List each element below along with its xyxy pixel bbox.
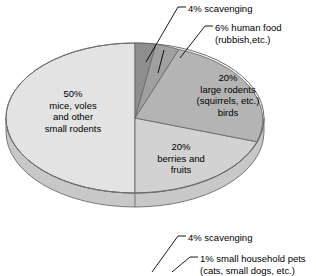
slice-label-berries-line2: berries and <box>140 153 222 165</box>
callout-label-small-household-pets: 1% small household pets (cats, small dog… <box>200 253 306 276</box>
callout-label-scavenging-bottom: 4% scavenging <box>188 232 252 244</box>
callout-text-pets-line2: (cats, small dogs, etc.) <box>200 265 306 276</box>
slice-label-berries-and-fruits: 20% berries and fruits <box>140 141 222 176</box>
slice-label-large-percent: 20% <box>176 72 280 84</box>
slice-label-large-line4: birds <box>176 107 280 119</box>
slice-label-berries-line3: fruits <box>140 164 222 176</box>
leader-line-scavenging-bottom <box>152 236 186 272</box>
slice-label-mice-percent: 50% <box>18 88 128 100</box>
slice-label-large-line3: (squirrels, etc.) <box>176 95 280 107</box>
leader-line-small-household-pets <box>172 257 198 272</box>
callout-text-pets-line1: 1% small household pets <box>200 253 306 265</box>
slice-label-mice-line4: small rodents <box>18 123 128 135</box>
callout-text-human-food-line1: 6% human food <box>215 22 282 34</box>
slice-label-mice-line2: mice, voles <box>18 100 128 112</box>
slice-label-berries-percent: 20% <box>140 141 222 153</box>
slice-label-mice-line3: and other <box>18 111 128 123</box>
slice-label-large-rodents-birds: 20% large rodents (squirrels, etc.) bird… <box>176 72 280 118</box>
callout-text-scavenging-bottom: 4% scavenging <box>188 232 252 243</box>
callout-label-scavenging-top: 4% scavenging <box>188 3 252 15</box>
callout-text-scavenging-top: 4% scavenging <box>188 3 252 14</box>
slice-label-mice-voles-small-rodents: 50% mice, voles and other small rodents <box>18 88 128 134</box>
callout-text-human-food-line2: (rubbish,etc.) <box>215 34 282 46</box>
slice-label-large-line2: large rodents <box>176 84 280 96</box>
callout-label-human-food: 6% human food (rubbish,etc.) <box>215 22 282 45</box>
